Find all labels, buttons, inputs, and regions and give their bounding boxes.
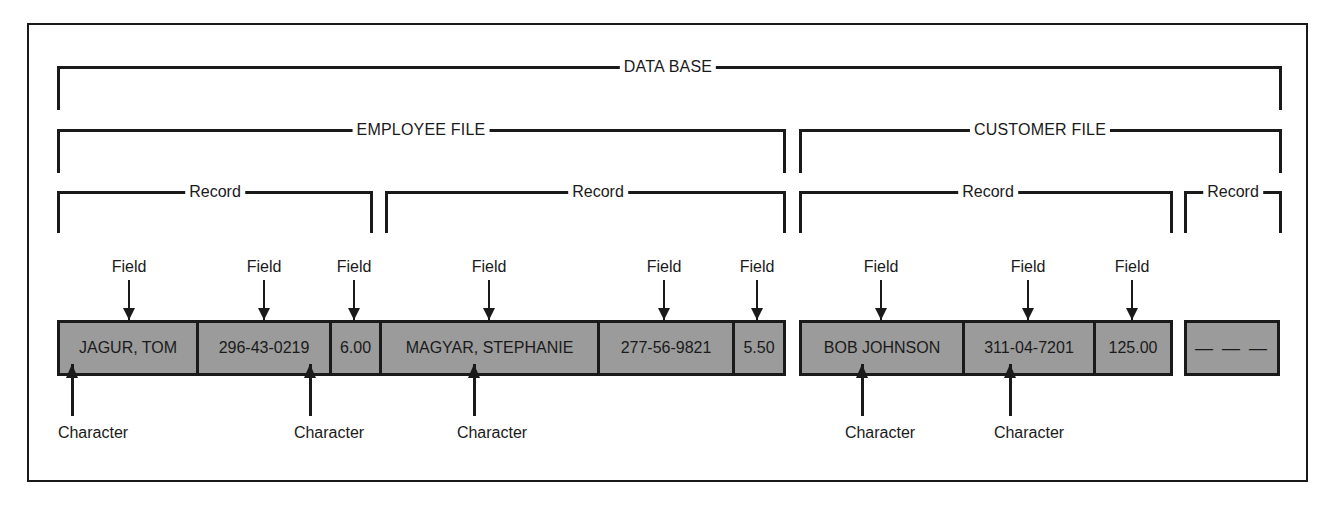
character-label: Character — [58, 424, 128, 442]
character-arrow-icon — [309, 364, 312, 416]
field-label: Field — [647, 258, 682, 276]
field-cell-id: 311-04-7201 — [965, 323, 1096, 373]
employee-file-bracket: EMPLOYEE FILE — [57, 129, 786, 173]
field-arrow-icon — [263, 280, 265, 320]
field-arrow-icon — [353, 280, 355, 320]
field-label: Field — [112, 258, 147, 276]
field-cell-name: JAGUR, TOM — [60, 323, 199, 373]
customer-file-label: CUSTOMER FILE — [970, 121, 1110, 139]
field-arrow-icon — [756, 280, 758, 320]
field-cell-amount: 125.00 — [1096, 323, 1170, 373]
character-label: Character — [294, 424, 364, 442]
field-arrow-icon — [663, 280, 665, 320]
field-label: Field — [1011, 258, 1046, 276]
record-label: Record — [185, 183, 245, 201]
record-label: Record — [1203, 183, 1263, 201]
field-arrow-icon — [128, 280, 130, 320]
field-cell-rate: 5.50 — [735, 323, 783, 373]
record-label: Record — [958, 183, 1018, 201]
field-cell-name: MAGYAR, STEPHANIE — [382, 323, 600, 373]
character-label: Character — [994, 424, 1064, 442]
field-arrow-icon — [1027, 280, 1029, 320]
character-arrow-icon — [1009, 364, 1012, 416]
character-label: Character — [845, 424, 915, 442]
field-cell-rate: 6.00 — [332, 323, 382, 373]
field-label: Field — [740, 258, 775, 276]
record-bracket-4: Record — [1184, 191, 1282, 233]
character-arrow-icon — [71, 364, 74, 416]
field-label: Field — [247, 258, 282, 276]
placeholder-cell: — — — — [1187, 323, 1277, 373]
field-label: Field — [472, 258, 507, 276]
field-label: Field — [864, 258, 899, 276]
record-bracket-1: Record — [57, 191, 373, 233]
field-cell-name: BOB JOHNSON — [802, 323, 965, 373]
record-bracket-3: Record — [799, 191, 1173, 233]
field-label: Field — [1115, 258, 1150, 276]
character-label: Character — [457, 424, 527, 442]
character-arrow-icon — [861, 364, 864, 416]
field-arrow-icon — [880, 280, 882, 320]
employee-file-label: EMPLOYEE FILE — [353, 121, 490, 139]
database-bracket: DATA BASE — [57, 66, 1282, 110]
character-arrow-icon — [473, 364, 476, 416]
database-label: DATA BASE — [620, 58, 716, 76]
record-bracket-2: Record — [385, 191, 786, 233]
field-arrow-icon — [488, 280, 490, 320]
field-cell-id: 277-56-9821 — [600, 323, 735, 373]
record-label: Record — [568, 183, 628, 201]
field-label: Field — [337, 258, 372, 276]
employee-records-block: JAGUR, TOM 296-43-0219 6.00 MAGYAR, STEP… — [57, 320, 786, 376]
field-arrow-icon — [1131, 280, 1133, 320]
customer-file-bracket: CUSTOMER FILE — [799, 129, 1282, 173]
placeholder-record-block: — — — — [1184, 320, 1280, 376]
